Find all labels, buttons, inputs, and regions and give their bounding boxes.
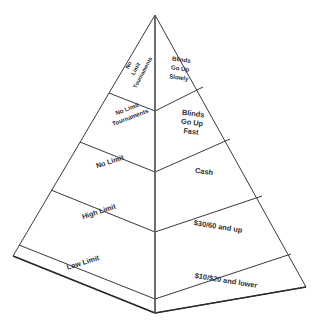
pyramid-diagram: No Limit Tournaments Blinds Go Up Slowly… xyxy=(0,0,322,335)
tier-2-right-label-group: Cash xyxy=(194,166,214,177)
tier-0-right-line-2: Slowly xyxy=(169,72,190,82)
tier-3-right-line-0: $30/60 and up xyxy=(193,218,243,235)
tier-4-right-line-0: $10/$20 and lower xyxy=(194,271,258,290)
poker-pyramid-figure: No Limit Tournaments Blinds Go Up Slowly… xyxy=(0,0,322,335)
divider-right-1 xyxy=(155,87,203,111)
tier-0-right-line-0: Blinds xyxy=(172,54,192,64)
base-edge-right xyxy=(155,287,306,313)
tier-0-right-line-1: Go Up xyxy=(171,63,190,73)
tier-0-right-label-group: Blinds Go Up Slowly xyxy=(169,54,192,82)
tier-2-left-line-0: No Limit xyxy=(95,153,126,171)
tier-1-right-line-2: Fast xyxy=(183,126,200,137)
tier-2-right-line-0: Cash xyxy=(194,166,214,177)
tier-4-left-line-0: Low Limit xyxy=(65,253,100,272)
divider-right-2 xyxy=(155,139,230,172)
tier-1-right-label-group: Blinds Go Up Fast xyxy=(179,108,205,138)
tier-1-left-label-group: No Limit Tournaments xyxy=(108,98,150,127)
tier-4-right-label-group: $10/$20 and lower xyxy=(194,271,258,290)
tier-3-right-label-group: $30/60 and up xyxy=(193,218,243,235)
tier-2-left-label-group: No Limit xyxy=(95,153,126,171)
tier-4-left-label-group: Low Limit xyxy=(65,253,100,272)
divider-left-4 xyxy=(19,245,155,299)
